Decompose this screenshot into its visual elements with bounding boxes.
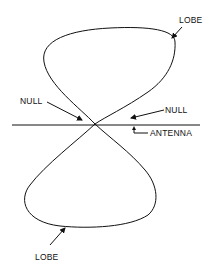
lobe-bottom-arrow <box>50 228 65 245</box>
top-lobe <box>44 28 175 124</box>
label-null-left: NULL <box>20 96 43 106</box>
antenna-bracket <box>134 129 148 133</box>
label-lobe-top: LOBE <box>179 15 202 25</box>
null-right-arrow <box>131 110 164 118</box>
bottom-lobe <box>25 124 156 227</box>
radiation-pattern-diagram: LOBE NULL NULL ANTENNA LOBE <box>0 0 213 266</box>
label-null-right: NULL <box>165 105 188 115</box>
lobe-top-arrow <box>172 27 182 38</box>
label-antenna: ANTENNA <box>150 128 192 138</box>
null-left-arrow <box>47 102 82 120</box>
antenna-arrowhead <box>132 126 136 130</box>
label-lobe-bottom: LOBE <box>35 252 58 262</box>
